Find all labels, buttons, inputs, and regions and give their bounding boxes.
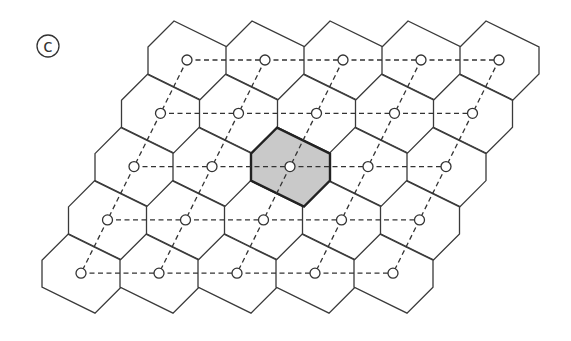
node-circle — [103, 215, 113, 225]
node-circle — [310, 268, 320, 278]
node-circle — [232, 268, 242, 278]
node-circle — [337, 215, 347, 225]
node-circle — [182, 55, 192, 65]
node-circle — [156, 108, 166, 118]
node-circle — [76, 268, 86, 278]
node-circle — [260, 55, 270, 65]
node-circle — [468, 108, 478, 118]
node-circle — [181, 215, 191, 225]
node-circle — [259, 215, 269, 225]
node-circle — [129, 162, 139, 172]
node-circle — [415, 215, 425, 225]
node-circle — [285, 162, 295, 172]
node-circle — [312, 108, 322, 118]
node-circle — [363, 162, 373, 172]
node-circle — [441, 162, 451, 172]
node-circle — [416, 55, 426, 65]
node-circle — [338, 55, 348, 65]
node-circle — [390, 108, 400, 118]
hex-lattice-diagram: c — [0, 0, 571, 341]
node-circle — [154, 268, 164, 278]
node-circle — [234, 108, 244, 118]
node-circle — [388, 268, 398, 278]
panel-label: c — [37, 35, 59, 57]
panel-label-text: c — [43, 36, 52, 56]
node-circle — [494, 55, 504, 65]
node-circle — [207, 162, 217, 172]
